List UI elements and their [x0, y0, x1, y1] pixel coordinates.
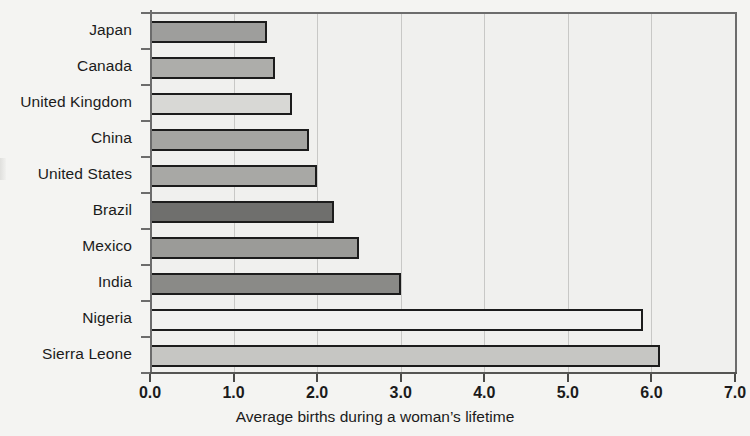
bar-united-states: [150, 165, 317, 187]
y-tick-8: [141, 300, 150, 302]
bar-india: [150, 273, 401, 295]
x-tick-2.0: [316, 374, 318, 382]
x-axis-title: Average births during a woman’s lifetime: [0, 408, 750, 426]
category-axis-labels: JapanCanadaUnited KingdomChinaUnited Sta…: [0, 12, 140, 372]
category-label-mexico: Mexico: [82, 235, 132, 257]
x-tick-7.0: [734, 374, 736, 382]
x-tick-0.0: [149, 374, 151, 382]
x-axis-line: [148, 372, 737, 374]
x-tick-5.0: [567, 374, 569, 382]
category-label-sierra-leone: Sierra Leone: [42, 343, 132, 365]
x-tick-label-1.0: 1.0: [222, 384, 244, 402]
y-tick-7: [141, 264, 150, 266]
category-label-united-kingdom: United Kingdom: [20, 91, 132, 113]
category-label-china: China: [91, 127, 132, 149]
x-tick-label-6.0: 6.0: [640, 384, 662, 402]
x-tick-label-4.0: 4.0: [473, 384, 495, 402]
plot-area: [150, 12, 737, 374]
bar-canada: [150, 57, 275, 79]
bar-brazil: [150, 201, 334, 223]
x-tick-1.0: [233, 374, 235, 382]
category-label-japan: Japan: [89, 19, 132, 41]
chart-figure: JapanCanadaUnited KingdomChinaUnited Sta…: [0, 0, 750, 436]
y-tick-5: [141, 192, 150, 194]
x-tick-4.0: [483, 374, 485, 382]
category-label-india: India: [98, 271, 132, 293]
bar-nigeria: [150, 309, 643, 331]
x-tick-3.0: [400, 374, 402, 382]
x-tick-label-0.0: 0.0: [139, 384, 161, 402]
bar-china: [150, 129, 309, 151]
x-tick-label-2.0: 2.0: [306, 384, 328, 402]
bar-mexico: [150, 237, 359, 259]
y-tick-3: [141, 120, 150, 122]
x-tick-label-7.0: 7.0: [724, 384, 746, 402]
category-label-united-states: United States: [38, 163, 132, 185]
y-tick-0: [141, 12, 150, 14]
category-label-nigeria: Nigeria: [82, 307, 132, 329]
y-tick-9: [141, 336, 150, 338]
y-tick-1: [141, 48, 150, 50]
x-tick-label-3.0: 3.0: [390, 384, 412, 402]
x-tick-label-5.0: 5.0: [557, 384, 579, 402]
y-tick-4: [141, 156, 150, 158]
category-label-brazil: Brazil: [93, 199, 132, 221]
y-tick-2: [141, 84, 150, 86]
bar-sierra-leone: [150, 345, 660, 367]
gridline-6.0: [651, 14, 652, 374]
category-label-canada: Canada: [77, 55, 132, 77]
bar-united-kingdom: [150, 93, 292, 115]
x-tick-6.0: [650, 374, 652, 382]
bar-japan: [150, 21, 267, 43]
y-tick-6: [141, 228, 150, 230]
y-axis-line: [150, 10, 152, 374]
